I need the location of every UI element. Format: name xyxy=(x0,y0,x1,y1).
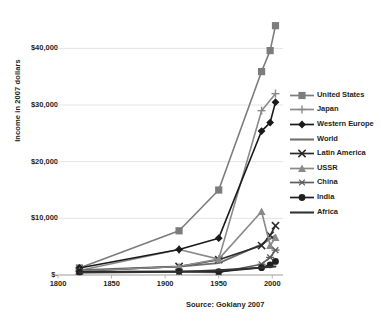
legend-label: Japan xyxy=(315,104,338,113)
square-marker xyxy=(272,22,279,29)
legend-item-ussr[interactable]: USSR xyxy=(289,160,381,175)
legend-item-india[interactable]: India xyxy=(289,189,381,204)
legend-key-cross-icon xyxy=(289,146,315,159)
income-line-chart: Income in 2007 dollars $-$10,000$20,000$… xyxy=(0,0,381,327)
legend-item-western-europe[interactable]: Western Europe xyxy=(289,116,381,131)
legend-key-none-icon xyxy=(289,205,315,218)
legend-item-latin-america[interactable]: Latin America xyxy=(289,145,381,160)
triangle-marker xyxy=(258,208,266,215)
legend-item-africa[interactable]: Africa xyxy=(289,204,381,219)
series-line xyxy=(79,102,275,268)
square-marker xyxy=(215,186,222,193)
circle-marker xyxy=(272,258,279,265)
legend-label: Africa xyxy=(315,207,338,216)
legend-label: Western Europe xyxy=(315,119,374,128)
series-united-states xyxy=(76,22,279,271)
legend-item-world[interactable]: World xyxy=(289,131,381,146)
circle-marker xyxy=(299,194,306,201)
square-marker xyxy=(267,47,274,54)
chart-legend: United StatesJapanWestern EuropeWorldLat… xyxy=(289,87,381,218)
legend-key-asterisk-icon xyxy=(289,175,315,188)
legend-label: World xyxy=(315,134,338,143)
legend-label: China xyxy=(315,177,338,186)
legend-key-triangle-icon xyxy=(289,161,315,174)
legend-item-china[interactable]: China xyxy=(289,175,381,190)
legend-label: India xyxy=(315,192,334,201)
legend-label: Latin America xyxy=(315,148,366,157)
legend-item-japan[interactable]: Japan xyxy=(289,102,381,117)
legend-label: United States xyxy=(315,90,364,99)
series-japan xyxy=(75,90,279,275)
legend-key-none-icon xyxy=(289,132,315,145)
square-marker xyxy=(298,92,305,99)
source-note: Source: Goklany 2007 xyxy=(186,300,264,309)
legend-key-plus-icon xyxy=(289,102,315,115)
diamond-marker xyxy=(298,121,306,129)
legend-key-diamond-icon xyxy=(289,117,315,130)
legend-key-circle-icon xyxy=(289,190,315,203)
legend-item-united-states[interactable]: United States xyxy=(289,87,381,102)
series-line xyxy=(79,94,275,271)
legend-key-square-icon xyxy=(289,88,315,101)
diamond-marker xyxy=(215,234,223,242)
diamond-marker xyxy=(175,246,183,254)
legend-label: USSR xyxy=(315,163,338,172)
square-marker xyxy=(258,68,265,75)
series-western-europe xyxy=(76,98,280,272)
square-marker xyxy=(175,227,182,234)
